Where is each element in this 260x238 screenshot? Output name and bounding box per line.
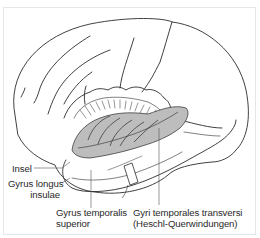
label-gyrus-temporalis-line2: superior	[56, 218, 90, 229]
brain-illustration	[0, 0, 260, 238]
label-gyrus-temporalis-line1: Gyrus temporalis	[56, 207, 127, 218]
label-gyrus-longus-line1: Gyrus longus	[8, 178, 60, 189]
label-gyri-transversi-line1: Gyri temporales transversi	[133, 207, 242, 218]
retractor	[124, 163, 138, 185]
label-insel: Insel	[12, 163, 32, 174]
label-gyri-transversi-line2: (Heschl-Querwindungen)	[133, 218, 237, 229]
insula-region	[72, 107, 188, 158]
label-gyrus-longus-line2: insulae	[8, 189, 60, 200]
